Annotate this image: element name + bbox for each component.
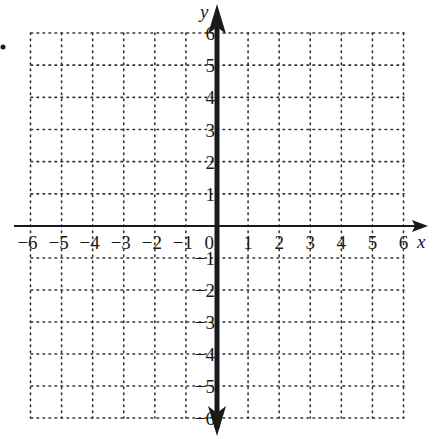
- x-tick-label: 1: [243, 232, 253, 253]
- y-axis-label: y: [198, 1, 209, 22]
- bullet-marker: [1, 45, 6, 50]
- y-tick-label: −1: [195, 248, 215, 269]
- x-axis-label: x: [416, 231, 426, 252]
- x-tick-label: −5: [48, 232, 68, 253]
- x-tick-label: 2: [274, 232, 284, 253]
- y-tick-label: −3: [195, 312, 215, 333]
- x-tick-label: −2: [142, 232, 162, 253]
- x-tick-label: 5: [368, 232, 378, 253]
- y-tick-label: −4: [195, 344, 216, 365]
- y-tick-label: 6: [206, 23, 216, 44]
- x-tick-label: 6: [399, 232, 409, 253]
- x-tick-label: 4: [337, 232, 347, 253]
- x-tick-label: 3: [306, 232, 316, 253]
- y-tick-label: 4: [206, 87, 216, 108]
- x-tick-label: −4: [80, 232, 101, 253]
- y-tick-label: −5: [195, 376, 215, 397]
- y-tick-label: 2: [206, 152, 216, 173]
- coordinate-plane: −6−5−4−3−2−10123456 654321−1−2−3−4−5−6 x…: [0, 0, 434, 439]
- y-tick-label: 3: [206, 120, 216, 141]
- x-tick-label: −3: [111, 232, 131, 253]
- y-tick-label: −2: [195, 280, 215, 301]
- x-tick-label: −6: [17, 232, 37, 253]
- y-tick-label: 5: [206, 55, 216, 76]
- y-tick-label: 1: [206, 184, 216, 205]
- x-tick-label: −1: [173, 232, 193, 253]
- axes: [14, 4, 428, 436]
- y-tick-label: −6: [195, 408, 215, 429]
